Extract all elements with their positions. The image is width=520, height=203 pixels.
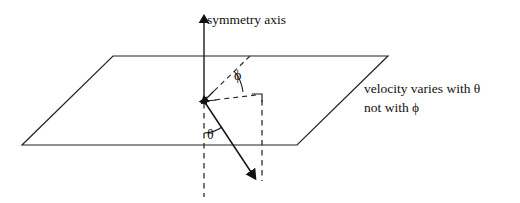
phi-ray-upper-dashed	[206, 56, 250, 99]
theta-angle-label: θ	[207, 127, 214, 143]
phi-ray-lower-dashed	[206, 95, 256, 101]
velocity-annotation: velocity varies with θ not with ϕ	[364, 81, 480, 118]
annotation-line-1: velocity varies with θ	[364, 81, 480, 100]
annotation-line-2: not with ϕ	[364, 100, 480, 119]
phi-angle-label: ϕ	[234, 68, 241, 84]
diagram-canvas: symmetry axis ϕ θ velocity varies with θ…	[0, 0, 520, 203]
symmetry-axis-label: symmetry axis	[207, 12, 286, 28]
horizontal-plane	[22, 56, 388, 145]
